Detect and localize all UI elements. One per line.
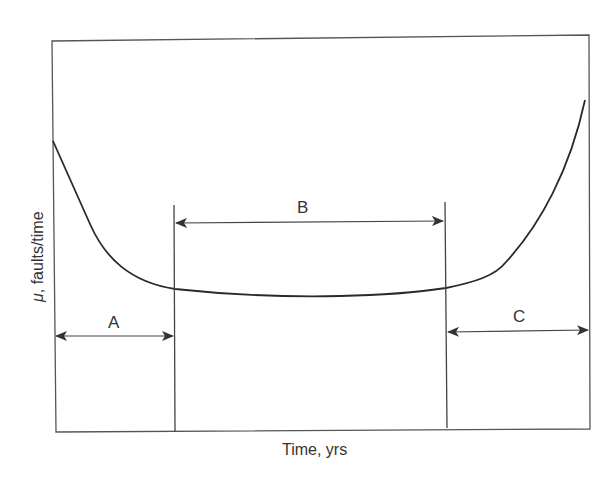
region-b-arrow [176, 221, 443, 223]
failure-rate-curve [53, 100, 585, 296]
divider-a-b [174, 205, 175, 432]
y-axis-label: μ, faults/time [29, 211, 46, 303]
plot-frame [52, 35, 590, 432]
region-b-label: B [297, 198, 308, 217]
y-axis-symbol: μ [29, 293, 46, 303]
bathtub-curve-diagram: A B C Time, yrs μ, faults/time [0, 0, 608, 481]
y-axis-text: , faults/time [29, 211, 46, 293]
divider-b-c [445, 202, 447, 428]
region-a-label: A [108, 313, 120, 332]
region-c-arrow [448, 330, 588, 332]
x-axis-label: Time, yrs [282, 441, 347, 458]
region-c-label: C [513, 307, 525, 326]
